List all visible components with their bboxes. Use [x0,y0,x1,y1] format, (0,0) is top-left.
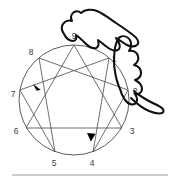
arrow-toward-four [87,133,96,142]
enneagram-diagram: 9 1 2 3 4 5 6 7 8 [0,0,174,184]
point-label-8: 8 [29,47,34,57]
enneagram-hexad-142857 [20,58,128,152]
point-label-5: 5 [52,158,57,168]
enneagram-triangle-936 [26,45,122,128]
point-label-7: 7 [11,89,16,99]
point-label-6: 6 [14,126,19,136]
enneagram-figure-page: 9 1 2 3 4 5 6 7 8 [0,0,174,184]
point-label-4: 4 [90,158,95,168]
point-label-3: 3 [130,126,135,136]
